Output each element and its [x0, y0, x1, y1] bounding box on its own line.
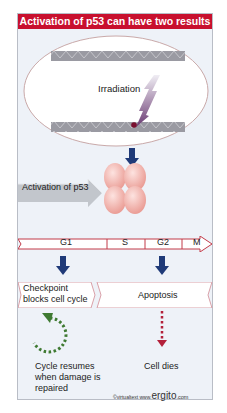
- phase-s: S: [122, 237, 128, 247]
- activation-label: Activation of p53: [22, 182, 89, 192]
- checkpoint-label: Checkpoint blocks cell cycle: [23, 283, 88, 305]
- arrow-down-icon: [155, 256, 169, 276]
- phase-m: M: [193, 237, 201, 247]
- cell-dies-label: Cell dies: [144, 361, 179, 371]
- phase-g2: G2: [157, 237, 169, 247]
- arrow-down-icon: [56, 256, 70, 276]
- copyright-credit: ©virtualtext www.ergito.com: [113, 390, 188, 401]
- diagram-title: Activation of p53 can have two results: [18, 14, 212, 29]
- apoptosis-label: Apoptosis: [138, 290, 178, 300]
- cycle-resume-arrow-icon: [26, 311, 76, 357]
- phase-g1: G1: [60, 237, 72, 247]
- p53-tetramer-icon: [100, 162, 150, 216]
- dna-damage-dot: [131, 122, 137, 128]
- cell-death-arrow-icon: [155, 311, 169, 351]
- diagram-frame: Activation of p53 can have two results I…: [17, 13, 213, 400]
- cell-cycle-bar: [18, 236, 214, 252]
- dna-strand-bottom: [51, 122, 185, 132]
- cycle-resumes-label: Cycle resumes when damage is repaired: [35, 361, 101, 394]
- dna-strand-top: [51, 51, 185, 61]
- irradiation-label: Irradiation: [98, 83, 140, 94]
